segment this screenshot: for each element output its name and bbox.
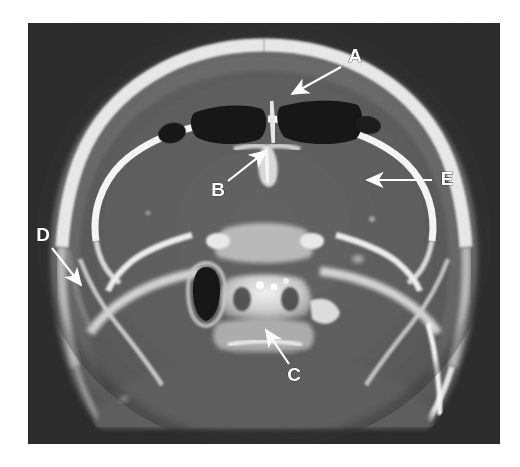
ct-scan-image[interactable] xyxy=(28,23,500,444)
figure-root: A B C D E xyxy=(0,0,520,467)
ct-scan-canvas xyxy=(28,23,500,444)
clivus-basiocciput xyxy=(213,319,314,355)
mastoid-air-cell xyxy=(188,263,225,326)
ghost-caption-artifact xyxy=(30,445,330,461)
